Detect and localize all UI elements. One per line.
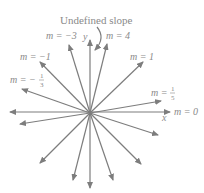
line-m1-5-down — [20, 113, 90, 124]
svg-text:1: 1 — [40, 72, 44, 80]
svg-text:m =: m = — [151, 87, 167, 98]
label-m-neg1: m = −1 — [20, 51, 51, 62]
svg-text:5: 5 — [171, 94, 175, 102]
slope-diagram: Undefined slope y m = −3 m = 4 m = −1 m … — [0, 0, 204, 193]
line-m1-down — [40, 113, 90, 163]
x-axis-label: x — [161, 112, 167, 123]
label-undefined-slope: Undefined slope — [60, 14, 133, 26]
svg-text:1: 1 — [171, 85, 175, 93]
svg-text:m = −: m = − — [10, 74, 36, 85]
label-m-neg1-3: m = − 1 3 — [10, 72, 44, 89]
line-m-neg1-3-up — [22, 89, 90, 113]
curved-pointer-arrow-icon — [95, 27, 101, 50]
line-m4-down — [73, 113, 90, 180]
y-axis-label: y — [82, 31, 88, 42]
svg-text:3: 3 — [40, 81, 44, 89]
line-m4-up — [90, 44, 107, 113]
label-m1: m = 1 — [130, 51, 154, 62]
label-m-neg3: m = −3 — [46, 30, 77, 41]
label-m0: m = 0 — [174, 106, 198, 117]
slope-lines — [10, 40, 170, 188]
label-m4: m = 4 — [106, 30, 130, 41]
label-m1-5: m = 1 5 — [151, 85, 175, 102]
line-m-neg3-down — [90, 113, 113, 180]
